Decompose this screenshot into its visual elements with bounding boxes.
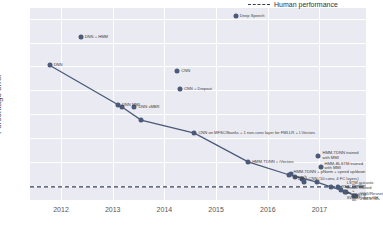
point-label: HMM-TDNN trained with MMI bbox=[322, 151, 366, 160]
data-point[interactable] bbox=[328, 184, 333, 189]
x-tick-label: 2016 bbox=[260, 206, 276, 213]
data-point[interactable] bbox=[233, 14, 238, 19]
x-tick-label: 2013 bbox=[105, 206, 121, 213]
point-label: DNN + HMM bbox=[85, 34, 108, 39]
data-point[interactable] bbox=[177, 87, 182, 92]
chart-legend: Human performance bbox=[248, 1, 338, 8]
x-tick-label: 2014 bbox=[157, 206, 173, 213]
data-point[interactable] bbox=[115, 102, 120, 107]
data-point[interactable] bbox=[139, 118, 144, 123]
x-tick-label: 2017 bbox=[312, 206, 328, 213]
point-label: Deep Speech bbox=[240, 14, 265, 19]
x-tick-label: 2012 bbox=[53, 206, 69, 213]
point-label: DNN MMI bbox=[122, 102, 140, 107]
data-point[interactable] bbox=[175, 69, 180, 74]
point-label: CNN + Dropout bbox=[184, 87, 212, 92]
human-performance-legend-swatch bbox=[248, 4, 270, 5]
point-label: VGG/Resnet + BiLSTMs bbox=[360, 192, 383, 201]
point-label: DNN bbox=[54, 63, 63, 68]
plot-area: DNN + HMMDeep SpeechDNNCNNCNN + DropoutD… bbox=[30, 8, 366, 200]
y-axis-label: Percentage error bbox=[0, 74, 3, 134]
data-point[interactable] bbox=[47, 63, 52, 68]
point-label: HMM-BLSTM trained with MMI bbox=[325, 162, 366, 171]
point-label: CNN bbox=[181, 69, 190, 74]
point-label: CNN on MFSC/fbanks + 1 non-conv layer fo… bbox=[198, 131, 315, 136]
point-label: DNN sMBR bbox=[138, 105, 159, 110]
data-point[interactable] bbox=[78, 34, 83, 39]
x-tick-label: 2015 bbox=[208, 206, 224, 213]
point-label: HMM-TDNN + iVectors bbox=[252, 159, 294, 164]
data-point[interactable] bbox=[316, 153, 321, 158]
human-performance-legend-label: Human performance bbox=[274, 1, 338, 8]
data-point[interactable] bbox=[192, 131, 197, 136]
data-point[interactable] bbox=[246, 159, 251, 164]
